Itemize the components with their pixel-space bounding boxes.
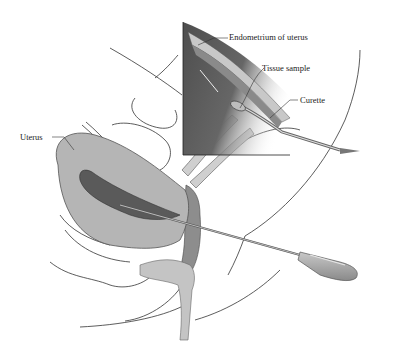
anatomy-drawing <box>0 0 402 358</box>
label-endometrium: Endometrium of uterus <box>229 33 308 42</box>
label-curette: Curette <box>300 96 325 105</box>
label-uterus: Uterus <box>20 133 43 142</box>
label-tissue-sample: Tissue sample <box>262 64 310 73</box>
biopsy-illustration: Endometrium of uterus Tissue sample Cure… <box>0 0 402 358</box>
